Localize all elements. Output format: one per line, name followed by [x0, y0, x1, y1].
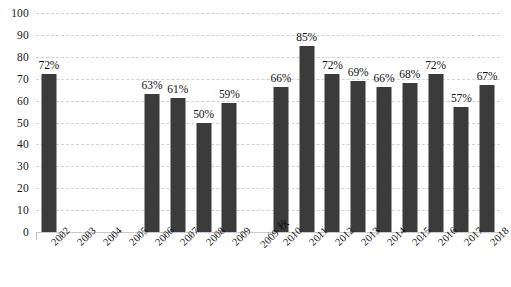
y-axis-tick-label: 10 — [17, 204, 29, 216]
bar-slot: 50% — [191, 13, 217, 232]
bar-slot: 72% — [320, 13, 346, 232]
bar-slot — [113, 13, 139, 232]
bar — [196, 123, 211, 233]
bar — [454, 107, 469, 232]
y-axis-tick-label: 90 — [17, 29, 29, 41]
y-axis-tick-label: 30 — [17, 160, 29, 172]
bar-slot: 69% — [345, 13, 371, 232]
bar — [480, 85, 495, 232]
bar-value-label: 72% — [38, 59, 59, 71]
bar — [222, 103, 237, 232]
bar — [144, 94, 159, 232]
bar-slot: 85% — [294, 13, 320, 232]
bar-slot: 72% — [36, 13, 62, 232]
bar-value-label: 67% — [477, 70, 498, 82]
bar-value-label: 59% — [219, 88, 240, 100]
bar-value-label: 50% — [193, 108, 214, 120]
bars: 72%63%61%50%59%66%85%72%69%66%68%72%57%6… — [36, 13, 500, 232]
bar-slot: 59% — [216, 13, 242, 232]
bar — [351, 81, 366, 232]
y-axis-tick-label: 40 — [17, 138, 29, 150]
x-axis-tick — [36, 232, 37, 240]
plot-area: 72%63%61%50%59%66%85%72%69%66%68%72%57%6… — [36, 13, 500, 232]
bar-slot: 72% — [423, 13, 449, 232]
y-axis-tick-label: 60 — [17, 95, 29, 107]
bar-slot — [88, 13, 114, 232]
bar-value-label: 66% — [270, 72, 291, 84]
bar-slot: 57% — [448, 13, 474, 232]
bar — [41, 74, 56, 232]
bar-value-label: 85% — [296, 31, 317, 43]
bar-value-label: 61% — [167, 83, 188, 95]
bar — [273, 87, 288, 232]
bar-value-label: 63% — [142, 79, 163, 91]
bar-slot — [242, 13, 268, 232]
bar-value-label: 69% — [348, 66, 369, 78]
bar-value-label: 57% — [451, 92, 472, 104]
bar-value-label: 72% — [425, 59, 446, 71]
bar — [376, 87, 391, 232]
bar-value-label: 68% — [399, 68, 420, 80]
y-axis-tick-label: 80 — [17, 51, 29, 63]
y-axis-tick-label: 100 — [11, 7, 29, 19]
bar — [428, 74, 443, 232]
y-axis: 0102030405060708090100 — [0, 13, 34, 232]
bar-slot: 68% — [397, 13, 423, 232]
bar-slot: 67% — [474, 13, 500, 232]
y-axis-tick-label: 0 — [23, 226, 29, 238]
bar-slot: 66% — [268, 13, 294, 232]
bar-value-label: 66% — [374, 72, 395, 84]
bar-slot: 66% — [371, 13, 397, 232]
bar — [325, 74, 340, 232]
bar — [170, 98, 185, 232]
bar-slot: 61% — [165, 13, 191, 232]
y-axis-tick-label: 50 — [17, 117, 29, 129]
y-axis-tick-label: 20 — [17, 182, 29, 194]
bar — [299, 46, 314, 232]
bar-slot: 63% — [139, 13, 165, 232]
bar-value-label: 72% — [322, 59, 343, 71]
y-axis-tick-label: 70 — [17, 73, 29, 85]
bar-slot — [62, 13, 88, 232]
x-axis-labels: 200220032004200520062007200820092009 秋20… — [36, 240, 500, 287]
bar — [402, 83, 417, 232]
